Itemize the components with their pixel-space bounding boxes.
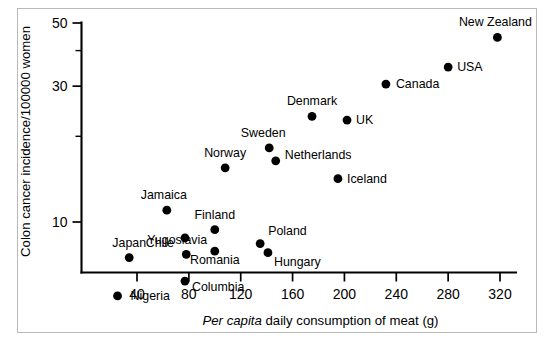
x-tick-label: 200 bbox=[333, 286, 357, 302]
data-point bbox=[343, 116, 352, 125]
data-point-label: Nigeria bbox=[131, 289, 170, 303]
data-point-labels: NigeriaJapanJamaicaYugoslaviaChileColumb… bbox=[112, 15, 532, 303]
data-point-label: Finland bbox=[194, 208, 235, 222]
data-point bbox=[125, 253, 134, 262]
data-point bbox=[210, 225, 219, 234]
data-point bbox=[113, 292, 122, 301]
data-point bbox=[493, 33, 502, 42]
data-point-label: Canada bbox=[396, 77, 440, 91]
data-point bbox=[221, 163, 230, 172]
y-tick-label: 30 bbox=[52, 78, 68, 94]
x-tick-label: 240 bbox=[385, 286, 409, 302]
data-point-label: UK bbox=[356, 113, 374, 127]
y-tick-label: 50 bbox=[52, 15, 68, 31]
data-point bbox=[256, 239, 265, 248]
data-point-label: Hungary bbox=[274, 255, 322, 269]
data-point-label: USA bbox=[457, 60, 483, 74]
data-point-label: Denmark bbox=[287, 94, 338, 108]
data-point bbox=[271, 156, 280, 165]
data-point-label: Iceland bbox=[347, 172, 387, 186]
data-point bbox=[162, 206, 171, 215]
data-point-label: Chile bbox=[146, 236, 174, 250]
x-tick-label: 160 bbox=[281, 286, 305, 302]
figure-container: 4080120160200240280320103050 NigeriaJapa… bbox=[0, 0, 556, 348]
data-point-label: Romania bbox=[190, 253, 240, 267]
data-point-label: Sweden bbox=[241, 126, 286, 140]
x-axis-title: Per capita daily consumption of meat (g) bbox=[202, 313, 438, 328]
x-tick-label: 320 bbox=[488, 286, 512, 302]
data-point-label: Netherlands bbox=[285, 148, 352, 162]
y-axis-title: Colon cancer incidence/100000 women bbox=[18, 26, 33, 257]
data-point-label: Columbia bbox=[192, 280, 244, 294]
data-point bbox=[308, 112, 317, 121]
data-point bbox=[444, 63, 453, 72]
data-point-label: Jamaica bbox=[141, 188, 187, 202]
data-point-label: Poland bbox=[268, 224, 307, 238]
data-point bbox=[264, 248, 273, 257]
data-point bbox=[382, 80, 391, 89]
y-tick-label: 10 bbox=[52, 214, 68, 230]
x-tick-label: 280 bbox=[436, 286, 460, 302]
data-point bbox=[181, 277, 190, 286]
data-point bbox=[265, 144, 274, 153]
data-point-label: Norway bbox=[204, 146, 247, 160]
data-point-label: Japan bbox=[112, 236, 146, 250]
data-point bbox=[334, 174, 343, 183]
data-point-label: New Zealand bbox=[459, 15, 532, 29]
scatter-plot: 4080120160200240280320103050 NigeriaJapa… bbox=[0, 0, 556, 348]
